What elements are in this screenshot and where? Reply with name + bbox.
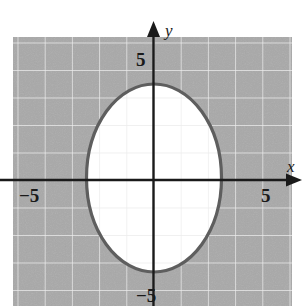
graph-figure: 5 −5 5 −5 y x — [0, 0, 302, 306]
y-axis-name-label: y — [165, 22, 173, 39]
y-axis-arrowhead — [147, 21, 160, 37]
x-axis-tick-label-negative-5: −5 — [19, 186, 39, 205]
coordinate-plane-svg — [0, 0, 302, 306]
x-axis-name-label: x — [287, 158, 295, 175]
y-axis-tick-label-5: 5 — [136, 50, 146, 69]
x-axis-tick-label-5: 5 — [261, 186, 271, 205]
y-axis-tick-label-negative-5: −5 — [136, 286, 156, 305]
